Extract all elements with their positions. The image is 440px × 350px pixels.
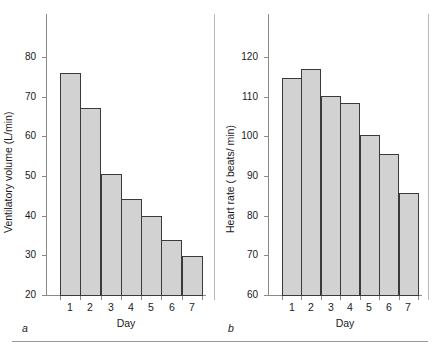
y-axis-line [46, 14, 47, 296]
figure-two-panel-bar-charts: 203040506070801234567 Ventilatory volume… [0, 0, 440, 350]
x-axis-tick-label: 3 [321, 302, 341, 313]
y-axis-tick-label: 80 [10, 52, 36, 62]
y-axis-tick [42, 57, 46, 58]
y-axis-tick [42, 216, 46, 217]
x-axis-tick-label: 7 [398, 302, 418, 313]
x-axis-tick [379, 296, 380, 300]
y-axis-tick-label: 70 [232, 250, 258, 260]
x-axis-tick-label: 7 [182, 302, 202, 313]
x-axis-tick [80, 296, 81, 300]
x-axis-tick-label: 2 [301, 302, 321, 313]
bar [101, 174, 122, 296]
x-axis-tick [161, 296, 162, 300]
x-axis-tick-label: 5 [141, 302, 161, 313]
bar [80, 108, 101, 296]
y-axis-tick [264, 176, 268, 177]
x-axis-tick-label: 6 [162, 302, 182, 313]
y-axis-tick [42, 97, 46, 98]
bar [301, 69, 321, 296]
x-axis-tick-label: 4 [340, 302, 360, 313]
x-axis-tick [360, 296, 361, 300]
bar [379, 154, 399, 296]
y-axis-tick [42, 176, 46, 177]
x-axis-tick [399, 296, 400, 300]
x-axis-tick [60, 296, 61, 300]
y-axis-tick-label: 20 [10, 290, 36, 300]
y-axis-tick-label: 70 [10, 92, 36, 102]
x-axis-tick [301, 296, 302, 300]
x-axis-tick [141, 296, 142, 300]
y-axis-line [268, 14, 269, 296]
y-axis-tick-label: 60 [232, 290, 258, 300]
y-axis-tick-label: 30 [10, 250, 36, 260]
x-axis-tick [182, 296, 183, 300]
panel-b: 607080901001101201234567 Heart rate ( be… [220, 0, 440, 340]
x-axis-tick-label: 6 [379, 302, 399, 313]
x-axis-title-a: Day [46, 317, 206, 329]
panel-b-right-edge [428, 14, 429, 300]
x-axis-tick [321, 296, 322, 300]
bar [282, 78, 302, 296]
bar [161, 240, 182, 296]
bar [321, 96, 341, 296]
bottom-divider-rule [12, 341, 428, 342]
bar [399, 193, 419, 296]
bar [121, 199, 142, 296]
bar [340, 103, 360, 296]
panel-a-right-edge [214, 14, 215, 300]
x-axis-tick-label: 1 [282, 302, 302, 313]
x-axis-tick-label: 2 [80, 302, 100, 313]
panel-letter-a: a [22, 322, 28, 334]
x-axis-tick-label: 3 [101, 302, 121, 313]
y-axis-tick-label: 120 [232, 52, 258, 62]
bar [141, 216, 162, 296]
x-axis-tick-label: 4 [121, 302, 141, 313]
bar [182, 256, 203, 296]
y-axis-title-a: Ventilatory volume (L/min) [2, 111, 14, 232]
x-axis-tick [121, 296, 122, 300]
x-axis-title-b: Day [268, 317, 422, 329]
y-axis-tick [264, 136, 268, 137]
y-axis-title-b: Heart rate ( beats/ min) [224, 125, 236, 233]
bar [60, 73, 81, 296]
bar [360, 135, 380, 296]
y-axis-tick [264, 255, 268, 256]
y-axis-tick [264, 295, 268, 296]
y-axis-tick [42, 136, 46, 137]
x-axis-tick [101, 296, 102, 300]
x-axis-tick-label: 5 [359, 302, 379, 313]
x-axis-tick [202, 296, 203, 300]
y-axis-tick [42, 255, 46, 256]
y-axis-tick-label: 110 [232, 92, 258, 102]
y-axis-tick [264, 57, 268, 58]
y-axis-tick [42, 295, 46, 296]
x-axis-tick [418, 296, 419, 300]
x-axis-tick [282, 296, 283, 300]
y-axis-tick [264, 97, 268, 98]
panel-a: 203040506070801234567 Ventilatory volume… [0, 0, 220, 340]
y-axis-tick [264, 216, 268, 217]
x-axis-tick [340, 296, 341, 300]
panel-letter-b: b [228, 322, 234, 334]
x-axis-tick-label: 1 [60, 302, 80, 313]
